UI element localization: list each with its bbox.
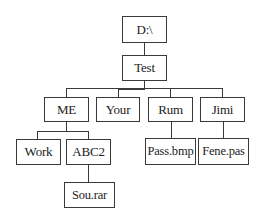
edge-root-test [144,42,145,55]
node-me-folder: ME [44,97,89,122]
edge-abc2-sou [88,164,89,182]
node-rum-folder: Rum [148,97,193,122]
edge-me-work [37,131,38,139]
node-test-folder: Test [122,55,167,81]
node-abc2-folder: ABC2 [66,139,111,165]
edge-test-rum [170,88,171,97]
edge-test-trunk [144,80,145,88]
node-root-drive: D:\ [122,16,167,43]
edge-test-jimi [222,88,223,97]
edge-rum-pass [171,121,172,138]
edge-jimi-fene [223,121,224,138]
edge-test-children-bar-thick [118,88,145,90]
edge-me-trunk [66,121,67,131]
edge-me-abc2 [88,131,89,139]
node-sou-rar-file: Sou.rar [64,182,115,208]
edge-me-children-bar [37,131,89,132]
node-your-folder: Your [96,97,140,122]
node-fene-pas-file: Fene.pas [198,138,249,165]
node-pass-bmp-file: Pass.bmp [145,138,196,165]
edge-test-me [66,88,67,97]
node-work-folder: Work [16,139,61,165]
node-jimi-folder: Jimi [200,97,245,122]
edge-test-your [118,88,119,97]
